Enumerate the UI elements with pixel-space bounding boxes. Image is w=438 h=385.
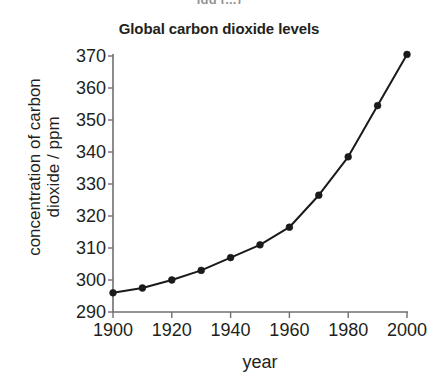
x-tick-label-1980: 1980 (328, 320, 368, 341)
data-point-2000 (404, 51, 411, 58)
chart-tick-marks (108, 56, 407, 318)
y-axis-title: concentration of carbon dioxide / ppm (22, 22, 66, 312)
data-point-1980 (345, 153, 352, 160)
data-point-1990 (374, 102, 381, 109)
data-point-1910 (139, 285, 146, 292)
data-point-1940 (227, 254, 234, 261)
y-axis-title-line-2: dioxide / ppm (44, 116, 63, 217)
data-point-1950 (257, 241, 264, 248)
data-point-1970 (315, 192, 322, 199)
x-axis-title: year (113, 352, 407, 373)
x-tick-label-1920: 1920 (152, 320, 192, 341)
x-tick-label-1960: 1960 (269, 320, 309, 341)
x-tick-label-1940: 1940 (211, 320, 251, 341)
co2-series-line (113, 54, 407, 292)
x-tick-label-2000: 2000 (387, 320, 427, 341)
y-axis-title-line-1: concentration of carbon (25, 78, 44, 256)
x-tick-label-1900: 1900 (93, 320, 133, 341)
data-point-1960 (286, 224, 293, 231)
co2-series-markers (110, 51, 411, 296)
chart-axes (113, 54, 408, 312)
data-point-1930 (198, 267, 205, 274)
data-point-1900 (110, 289, 117, 296)
data-point-1920 (168, 277, 175, 284)
